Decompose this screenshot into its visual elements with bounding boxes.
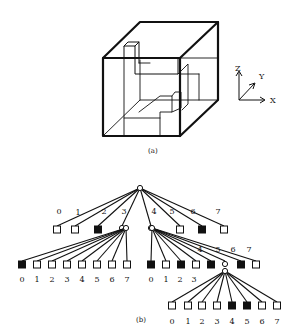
child-index-label: 1 [75,208,80,217]
child-index-label: 2 [199,317,204,326]
empty-leaf-node [259,302,266,309]
caption-a: (a) [148,147,158,155]
full-leaf-node [95,226,102,233]
child-index-label: 6 [230,245,235,254]
empty-leaf-node [163,261,170,268]
tree-edge [37,228,126,261]
child-index-label: 3 [121,207,126,216]
full-leaf-node [199,226,206,233]
child-index-label: 3 [64,275,69,284]
full-leaf-node [208,261,215,268]
tree-edge [75,188,140,226]
cube-diagram [103,22,218,136]
caption-b: (b) [136,316,146,324]
empty-leaf-node [274,302,281,309]
child-index-label: 1 [163,275,168,284]
internal-node [222,261,227,266]
empty-leaf-node [109,261,116,268]
octree-diagram: 01234567012345670123456701234567 [19,185,281,326]
child-index-label: 6 [190,207,195,216]
empty-leaf-node [214,302,221,309]
figure-canvas: (a) Z Y X 012345670123456701234567012345… [0,0,298,334]
empty-leaf-node [64,261,71,268]
child-index-label: 4 [229,317,234,326]
child-index-label: 0 [169,317,174,326]
full-leaf-node [178,261,185,268]
empty-leaf-node [169,302,176,309]
child-index-label: 3 [191,275,196,284]
child-index-label: 2 [101,207,106,216]
child-index-label: 1 [34,275,39,284]
empty-leaf-node [221,226,228,233]
child-index-label: 5 [94,275,99,284]
child-index-label: 0 [19,275,24,284]
internal-node [137,185,142,190]
child-index-label: 2 [49,275,54,284]
empty-leaf-node [124,261,131,268]
child-index-label: 4 [197,245,202,254]
child-index-label: 3 [214,317,219,326]
tree-edge [151,228,152,261]
internal-node [149,225,154,230]
tree-edge [126,228,127,261]
child-index-label: 7 [215,207,220,216]
internal-node [123,225,128,230]
child-index-label: 1 [185,317,190,326]
empty-leaf-node [193,261,200,268]
empty-leaf-node [34,261,41,268]
full-leaf-node [19,261,26,268]
child-index-label: 6 [109,275,114,284]
empty-leaf-node [185,302,192,309]
child-index-label: 0 [148,275,153,284]
empty-leaf-node [49,261,56,268]
tree-edge [57,188,140,226]
empty-leaf-node [177,226,184,233]
child-index-label: 6 [259,317,264,326]
child-index-label: 7 [124,275,129,284]
child-index-label: 4 [151,207,156,216]
full-leaf-node [244,302,251,309]
child-index-label: 5 [215,245,220,254]
child-index-label: 2 [177,275,182,284]
child-index-label: 5 [169,207,174,216]
child-index-label: 7 [246,245,251,254]
full-leaf-node [238,261,245,268]
child-index-label: 5 [244,317,249,326]
empty-leaf-node [199,302,206,309]
empty-leaf-node [54,226,61,233]
empty-leaf-node [94,261,101,268]
empty-leaf-node [79,261,86,268]
empty-leaf-node [72,226,79,233]
axis-y-label: Y [258,72,265,81]
child-index-label: 7 [274,317,279,326]
child-index-label: 0 [56,207,61,216]
child-index-label: 4 [79,275,84,284]
axis-z-label: Z [235,64,241,73]
full-leaf-node [148,261,155,268]
internal-node [222,268,227,273]
full-leaf-node [229,302,236,309]
empty-leaf-node [253,261,260,268]
tree-edge [225,271,277,302]
axis-x-label: X [270,96,276,105]
